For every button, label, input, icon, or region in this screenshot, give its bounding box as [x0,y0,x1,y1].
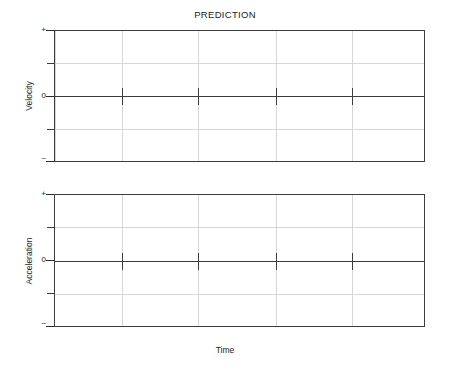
y-tick-label-positive-velocity: + [30,26,46,34]
horizontal-gridline [55,63,424,64]
x-tick-marker [122,88,123,105]
horizontal-gridline [55,294,424,295]
y-tick-label-zero-velocity: 0 [30,92,46,100]
horizontal-gridline [55,227,424,228]
x-tick-marker [198,88,199,105]
plot-area-acceleration [54,194,425,327]
plot-area-velocity [54,30,425,162]
x-tick-marker [352,253,353,270]
data-series-velocity [55,96,424,97]
figure-title: PREDICTION [0,9,450,20]
y-tick-label-negative-velocity: – [30,154,46,162]
x-tick-marker [276,88,277,105]
x-axis-title: Time [0,345,450,355]
x-tick-marker [276,253,277,270]
y-tick-label-zero-acceleration: 0 [30,256,46,264]
x-tick-marker [198,253,199,270]
data-series-acceleration [55,261,424,262]
horizontal-gridline [55,129,424,130]
chart-panel-velocity: Velocity + 0 – [0,30,450,162]
figure-canvas: PREDICTION Velocity + 0 – [0,0,450,369]
chart-panel-acceleration: Acceleration + 0 – [0,194,450,327]
x-tick-marker [352,88,353,105]
x-tick-marker [122,253,123,270]
y-tick-label-negative-acceleration: – [30,319,46,327]
y-tick-label-positive-acceleration: + [30,190,46,198]
